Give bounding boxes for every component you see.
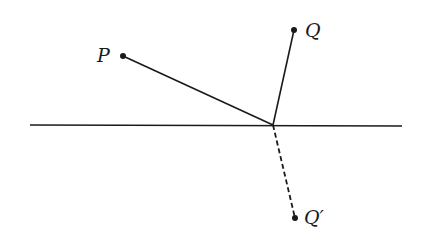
point-q-label: Q [305, 19, 321, 41]
segment-reflection-point-to-q-prime [273, 125, 295, 218]
point-q-prime-dot [292, 215, 298, 221]
point-q-dot [291, 27, 297, 33]
point-q-prime-label: Q′ [304, 206, 325, 228]
diagram-svg: P Q Q′ [0, 0, 424, 242]
point-p-label: P [96, 44, 111, 66]
diagram-canvas: P Q Q′ [0, 0, 424, 242]
mirror-line [30, 125, 402, 126]
point-p-dot [120, 53, 126, 59]
segment-q-to-reflection-point [273, 30, 294, 125]
segment-p-to-reflection-point [123, 56, 273, 125]
